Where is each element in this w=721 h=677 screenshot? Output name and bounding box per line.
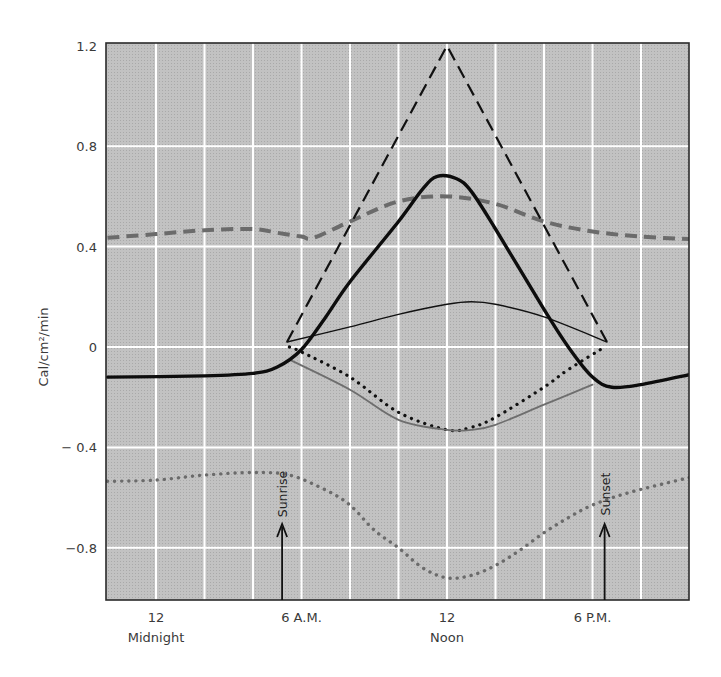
x-tick-label: 12 bbox=[148, 610, 165, 625]
y-axis-label: Cal/cm²/min bbox=[36, 308, 51, 387]
x-tick-sublabel: Midnight bbox=[128, 630, 185, 645]
x-tick-label: 6 P.M. bbox=[574, 610, 612, 625]
y-tick-label: − 0.4 bbox=[61, 440, 97, 455]
annotation-label: Sunset bbox=[598, 472, 613, 515]
x-tick-sublabel: Noon bbox=[430, 630, 464, 645]
y-tick-label: 0 bbox=[89, 340, 97, 355]
y-tick-label: −0.8 bbox=[65, 541, 97, 556]
y-tick-label: 0.8 bbox=[76, 139, 97, 154]
annotation-label: Sunrise bbox=[275, 470, 290, 517]
x-axis-ticks: 12Midnight6 A.M.12Noon6 P.M. bbox=[128, 610, 612, 645]
y-tick-label: 0.4 bbox=[76, 240, 97, 255]
y-tick-label: 1.2 bbox=[76, 39, 97, 54]
radiation-chart: 1.20.80.40− 0.4−0.8 12Midnight6 A.M.12No… bbox=[0, 0, 721, 677]
x-tick-label: 6 A.M. bbox=[281, 610, 322, 625]
y-axis-ticks: 1.20.80.40− 0.4−0.8 bbox=[61, 39, 97, 556]
x-tick-label: 12 bbox=[439, 610, 456, 625]
